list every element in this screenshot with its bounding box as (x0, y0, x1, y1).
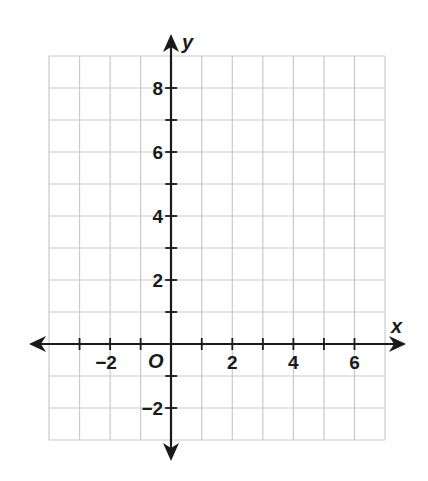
coordinate-plane: −22468642−2 x y O (0, 0, 428, 481)
y-tick-label: 8 (153, 78, 164, 99)
y-tick-label: −2 (142, 398, 164, 419)
y-tick-label: 4 (153, 206, 164, 227)
x-tick-label: 4 (288, 352, 299, 373)
y-tick-label: 6 (153, 142, 164, 163)
origin-label: O (148, 350, 164, 372)
x-axis-label: x (390, 315, 403, 337)
y-tick-label: 2 (153, 270, 164, 291)
y-axis-label: y (181, 31, 194, 53)
x-tick-label: −2 (95, 352, 117, 373)
x-tick-label: 6 (349, 352, 360, 373)
x-tick-label: 2 (227, 352, 238, 373)
grid-lines (49, 56, 385, 440)
